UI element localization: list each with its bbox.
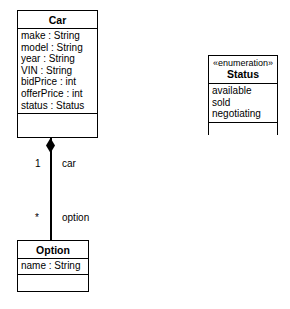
class-name-car: Car — [18, 11, 97, 29]
attribute-row: status : Status — [18, 100, 97, 112]
attribute-row: VIN : String — [18, 65, 97, 77]
literal-row: negotiating — [209, 108, 277, 120]
association-role-car: car — [62, 158, 76, 169]
association-multiplicity-option: * — [35, 212, 39, 223]
attribute-row: name : String — [18, 260, 88, 272]
class-box-option[interactable]: Option name : String — [17, 240, 89, 292]
operations-compartment-option — [18, 275, 88, 291]
association-line-car-option[interactable] — [50, 138, 52, 240]
enumeration-name-status: Status — [209, 68, 277, 83]
attributes-compartment-option: name : String — [18, 259, 88, 275]
class-name-option: Option — [18, 241, 88, 259]
attributes-compartment-car: make : String model : String year : Stri… — [18, 29, 97, 114]
attribute-row: bidPrice : int — [18, 76, 97, 88]
literals-compartment-status: available sold negotiating — [209, 84, 277, 123]
association-role-option: option — [62, 212, 89, 223]
operations-compartment-status — [209, 123, 277, 139]
class-box-car[interactable]: Car make : String model : String year : … — [17, 10, 98, 138]
enumeration-header-status: «enumeration» Status — [209, 56, 277, 84]
literal-row: available — [209, 85, 277, 97]
operations-compartment-car — [18, 114, 97, 130]
enumeration-box-status[interactable]: «enumeration» Status available sold nego… — [208, 55, 278, 135]
composition-diamond-icon — [46, 138, 55, 153]
stereotype-label: «enumeration» — [209, 56, 277, 68]
attribute-row: year : String — [18, 53, 97, 65]
literal-row: sold — [209, 97, 277, 109]
attribute-row: model : String — [18, 42, 97, 54]
attribute-row: offerPrice : int — [18, 88, 97, 100]
attribute-row: make : String — [18, 30, 97, 42]
association-multiplicity-car: 1 — [35, 158, 41, 169]
diagram-canvas: Car make : String model : String year : … — [0, 0, 290, 309]
